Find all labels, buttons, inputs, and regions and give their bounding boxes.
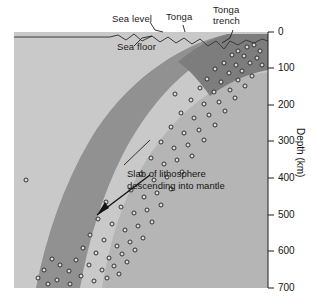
tonga-trench-label-line2: trench bbox=[213, 15, 240, 26]
depth-axis bbox=[268, 32, 274, 288]
depth-tick-700: 700 bbox=[278, 283, 295, 293]
cross-section-graphic bbox=[14, 32, 268, 288]
cross-section-panel bbox=[14, 32, 268, 288]
tonga-subduction-figure: Sea level Sea floor Tonga Tonga trench S… bbox=[0, 0, 311, 308]
sea-level-label: Sea level bbox=[112, 13, 152, 24]
depth-tick-200: 200 bbox=[278, 100, 295, 110]
depth-tick-300: 300 bbox=[278, 136, 295, 146]
tonga-label: Tonga bbox=[166, 11, 192, 22]
tonga-leader bbox=[183, 25, 185, 32]
depth-tick-500: 500 bbox=[278, 210, 295, 220]
tonga-trench-label-line1: Tonga bbox=[213, 4, 239, 15]
depth-tick-600: 600 bbox=[278, 246, 295, 256]
depth-tick-400: 400 bbox=[278, 173, 295, 183]
depth-tick-0: 0 bbox=[278, 27, 284, 37]
depth-axis-title: Depth (km) bbox=[295, 128, 306, 177]
slab-annotation: Slab of lithosphere descending into mant… bbox=[127, 168, 225, 191]
slab-annotation-line2: descending into mantle bbox=[127, 180, 225, 192]
slab-annotation-line1: Slab of lithosphere bbox=[127, 168, 225, 180]
sea-floor-label: Sea floor bbox=[117, 41, 156, 52]
depth-tick-100: 100 bbox=[278, 63, 295, 73]
